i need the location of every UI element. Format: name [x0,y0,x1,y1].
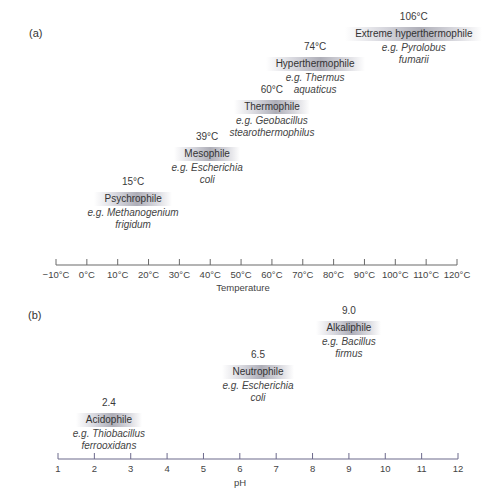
tick-label: 120°C [444,269,471,280]
axis-title: Temperature [216,282,269,293]
tick-label: 1 [55,463,60,474]
tick-label: 5 [201,463,206,474]
tick-label: 11 [417,463,427,474]
example-organism: e.g. Methanogenium [58,207,208,219]
marker-extreme-hyperthermophile: 106°CExtreme hyperthermophilee.g. Pyrolo… [339,11,489,66]
category-label: Neutrophile [222,365,293,379]
tick-label: 50°C [230,269,251,280]
tick-label: −10°C [43,269,70,280]
example-organism: e.g. Bacillus [274,336,424,348]
marker-alkaliphile: 9.0Alkaliphilee.g. Bacillusfirmus [274,305,424,360]
example-organism: e.g. Pyrolobus [339,42,489,54]
example-organism-line2: fumarii [339,54,489,66]
tick-label: 7 [274,463,279,474]
marker-value: 106°C [339,11,489,23]
marker-acidophile: 2.4Acidophilee.g. Thiobacillusferrooxida… [34,397,184,452]
tick-label: 9 [346,463,351,474]
marker-value: 2.4 [34,397,184,409]
category-label: Extreme hyperthermophile [345,27,482,41]
tick-label: 100°C [382,269,409,280]
category-label: Mesophile [174,147,240,161]
tick-label: 12 [453,463,464,474]
tick-label: 10°C [107,269,128,280]
category-label: Psychrophile [94,192,171,206]
tick-label: 10 [380,463,391,474]
example-organism: e.g. Thermus [240,72,390,84]
category-label: Acidophile [76,413,142,427]
tick-label: 8 [310,463,315,474]
tick-label: 40°C [200,269,221,280]
marker-mesophile: 39°CMesophilee.g. Escherichiacoli [132,131,282,186]
example-organism-line2: ferrooxidans [34,440,184,452]
tick-label: 3 [128,463,133,474]
tick-label: 6 [237,463,242,474]
example-organism-line2: firmus [274,348,424,360]
tick-label: 70°C [292,269,313,280]
marker-value: 9.0 [274,305,424,317]
example-organism: e.g. Escherichia [183,380,333,392]
category-label: Thermophile [234,100,310,114]
tick-label: 30°C [169,269,190,280]
tick-label: 60°C [261,269,282,280]
example-organism: e.g. Escherichia [132,162,282,174]
example-organism-line2: frigidum [58,219,208,231]
tick-label: 90°C [354,269,375,280]
tick-label: 0°C [79,269,95,280]
tick-label: 20°C [138,269,159,280]
example-organism-line2: coli [132,174,282,186]
example-organism: e.g. Geobacillus [197,115,347,127]
example-organism-line2: aquaticus [240,84,390,96]
category-label: Alkaliphile [316,321,381,335]
example-organism: e.g. Thiobacillus [34,428,184,440]
tick-label: 4 [164,463,169,474]
tick-label: 110°C [413,269,439,280]
axis-title: pH [234,477,246,488]
example-organism-line2: coli [183,392,333,404]
tick-label: 80°C [323,269,344,280]
example-organism-line2: stearothermophilus [197,127,347,139]
tick-label: 2 [92,463,97,474]
